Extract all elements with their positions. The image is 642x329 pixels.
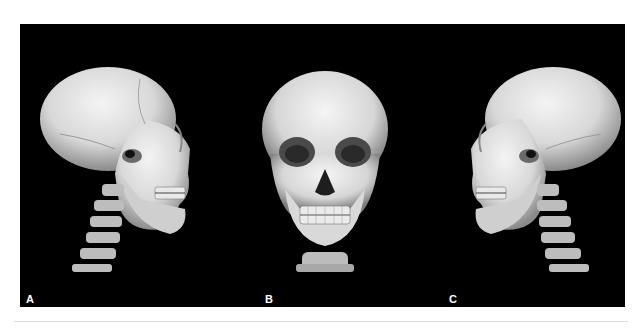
skull-frontal-image	[230, 24, 420, 307]
caption-divider	[14, 321, 628, 322]
panel-b-frontal-skull: B	[230, 24, 420, 307]
skull-lateral-left-image	[420, 24, 625, 307]
figure-panel: A	[20, 24, 625, 307]
skull-lateral-right-image	[20, 24, 230, 307]
panel-a-lateral-skull: A	[20, 24, 230, 307]
panel-label-b: B	[265, 294, 273, 305]
panel-label-c: C	[449, 294, 457, 305]
panel-c-lateral-skull: C	[420, 24, 625, 307]
panel-label-a: A	[26, 294, 34, 305]
